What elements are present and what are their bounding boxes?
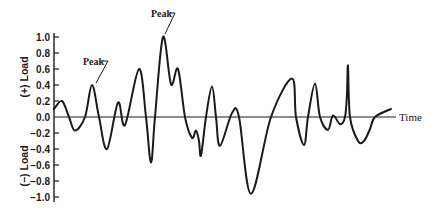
- y-tick-label: −1.0: [30, 192, 50, 203]
- y-tick-label: 0.2: [36, 96, 50, 107]
- y-tick-label: −0.6: [30, 160, 50, 171]
- y-tick-label: −0.2: [30, 128, 50, 139]
- y-tick-label: 1.0: [36, 32, 50, 43]
- y-label-positive: (+) Load: [18, 56, 30, 97]
- y-tick-label: −0.8: [30, 176, 50, 187]
- y-tick-label: 0.6: [36, 64, 50, 75]
- y-tick-label: 0.8: [36, 48, 50, 59]
- x-label-time: Time: [399, 111, 422, 123]
- y-tick-labels: 1.00.80.60.40.20.0−0.2−0.4−0.6−0.8−1.0: [30, 32, 50, 203]
- y-tick-label: 0.0: [36, 112, 50, 123]
- load-time-chart: 1.00.80.60.40.20.0−0.2−0.4−0.6−0.8−1.0 (…: [0, 0, 438, 221]
- y-label-negative: (−) Load: [18, 145, 30, 186]
- load-curve: [54, 37, 391, 194]
- y-tick-label: −0.4: [30, 144, 50, 155]
- y-tick-label: 0.4: [36, 80, 50, 91]
